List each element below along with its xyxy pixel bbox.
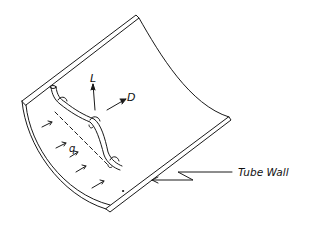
tube-wall-label: Tube Wall [238, 166, 289, 178]
drag-label: D [127, 91, 135, 104]
lift-arrow [91, 84, 95, 110]
fiber [50, 86, 122, 171]
flow-label: q [69, 143, 75, 154]
tube-wall-surface [22, 15, 231, 212]
drag-arrow [107, 99, 126, 110]
tube-wall-diagram: L D q Tube Wall [0, 0, 314, 226]
tube-wall-leader [152, 172, 232, 183]
flow-arrows [42, 121, 104, 188]
lift-label: L [90, 72, 96, 85]
